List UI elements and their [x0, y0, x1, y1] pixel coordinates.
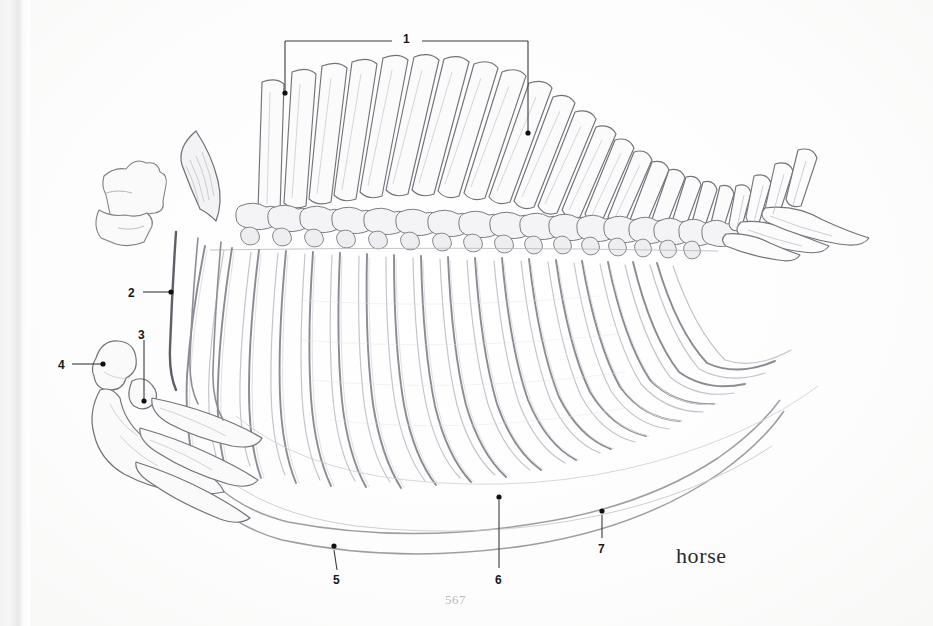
illustration-page: 1 2 3 4 5 6 7 horse 567 — [0, 0, 933, 626]
lumbar-vertebrae — [723, 149, 870, 261]
sternum — [92, 341, 262, 522]
thoracic-spinous-processes — [258, 55, 734, 234]
cervical-vertebrae — [96, 161, 166, 246]
callout-label-5: 5 — [333, 574, 340, 586]
callout-2-leader — [143, 289, 174, 294]
callout-6-leader — [496, 494, 501, 568]
callout-label-2: 2 — [128, 287, 135, 299]
callout-label-4: 4 — [58, 359, 65, 371]
callout-label-1: 1 — [403, 33, 410, 45]
callout-label-6: 6 — [495, 574, 502, 586]
page-number: 567 — [445, 592, 466, 608]
scapula-blade — [181, 131, 220, 221]
first-rib — [170, 232, 176, 390]
horse-skeleton-illustration — [0, 0, 933, 626]
callout-7-leader — [599, 508, 604, 538]
figure-caption: horse — [676, 543, 727, 569]
thorax-upper-arc — [236, 386, 818, 484]
skeleton-group — [92, 55, 869, 554]
callout-label-7: 7 — [598, 543, 605, 555]
thorax-ventral-outline — [186, 400, 784, 554]
ribs-far-side — [209, 250, 791, 482]
callout-label-3: 3 — [138, 329, 145, 341]
callout-5-leader — [331, 543, 337, 570]
ribs-highlight — [190, 250, 717, 488]
